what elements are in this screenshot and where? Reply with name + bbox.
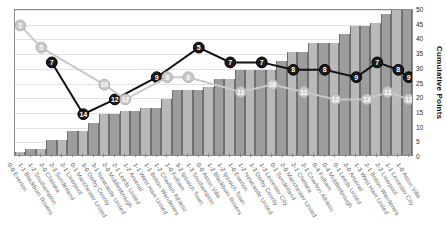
data-point-label: 14 xyxy=(79,111,87,118)
y-axis-tick-label: 30 xyxy=(416,64,423,71)
data-point-label: 10 xyxy=(268,81,276,88)
data-point-label: 11 xyxy=(384,89,392,96)
x-axis-tick xyxy=(250,153,251,157)
plot-area: 7141295778897892510129911101112121112 xyxy=(14,9,413,156)
data-point-label: 7 xyxy=(260,59,264,66)
y-axis-tick-label: 50 xyxy=(416,6,423,13)
y-axis-tick-label: 5 xyxy=(416,138,420,145)
data-point-label: 8 xyxy=(396,66,400,73)
x-axis-tick xyxy=(61,153,62,157)
x-axis-tick xyxy=(208,153,209,157)
x-axis-tick xyxy=(355,153,356,157)
chart-root: 7141295778897892510129911101112121112 05… xyxy=(0,0,447,232)
x-axis-tick xyxy=(334,153,335,157)
y-axis-title: Cumulative Points xyxy=(430,10,444,156)
y-axis-tick-label: 0 xyxy=(416,153,420,160)
x-axis-tick xyxy=(145,153,146,157)
data-point-label: 9 xyxy=(186,74,190,81)
data-point-label: 11 xyxy=(237,89,245,96)
data-point-label: 8 xyxy=(323,66,327,73)
x-axis-tick xyxy=(103,153,104,157)
y-axis-tick-label: 40 xyxy=(416,35,423,42)
x-axis-tick xyxy=(40,153,41,157)
data-point-label: 8 xyxy=(291,66,295,73)
x-axis-tick xyxy=(187,153,188,157)
x-axis-tick xyxy=(229,153,230,157)
data-point-label: 7 xyxy=(375,59,379,66)
line-series-overlay: 7141295778897892510129911101112121112 xyxy=(15,10,413,156)
x-axis-labels: 0-0 Everton1-1 Blackburn Rovers1-2 South… xyxy=(14,157,413,231)
data-point-label: 9 xyxy=(407,74,411,81)
x-axis-tick xyxy=(313,153,314,157)
data-point-label: 9 xyxy=(155,74,159,81)
y-axis-tick-label: 10 xyxy=(416,123,423,130)
data-point-label: 7 xyxy=(50,59,54,66)
data-point-label: 12 xyxy=(405,96,413,103)
data-point-label: 12 xyxy=(111,96,119,103)
data-point-label: 2 xyxy=(18,22,22,29)
data-point-label: 10 xyxy=(100,81,108,88)
data-point-label: 11 xyxy=(300,89,308,96)
opponent-name: Aston Villa xyxy=(401,171,422,199)
position-line-light xyxy=(20,25,409,99)
y-axis-tick-label: 15 xyxy=(416,108,423,115)
x-axis-label-cell: 1-0 Aston Villa xyxy=(403,157,414,231)
data-point-label: 5 xyxy=(39,44,43,51)
data-point-label: 12 xyxy=(121,96,129,103)
data-point-label: 9 xyxy=(354,74,358,81)
data-point-label: 12 xyxy=(363,96,371,103)
x-axis-tick xyxy=(166,153,167,157)
x-axis-tick xyxy=(124,153,125,157)
y-axis-tick-label: 45 xyxy=(416,20,423,27)
y-axis-tick-label: 25 xyxy=(416,79,423,86)
x-axis-tick xyxy=(82,153,83,157)
x-axis-tick xyxy=(376,153,377,157)
data-point-label: 5 xyxy=(197,44,201,51)
data-point-label: 7 xyxy=(228,59,232,66)
x-axis-tick xyxy=(271,153,272,157)
y-axis-tick-label: 20 xyxy=(416,94,423,101)
x-axis-tick xyxy=(19,153,20,157)
data-point-label: 12 xyxy=(331,96,339,103)
data-point-label: 9 xyxy=(165,74,169,81)
x-axis-tick xyxy=(397,153,398,157)
x-axis-tick xyxy=(292,153,293,157)
y-axis-tick-label: 35 xyxy=(416,50,423,57)
y-axis-ticks: 05101520253035404550 xyxy=(414,0,430,165)
